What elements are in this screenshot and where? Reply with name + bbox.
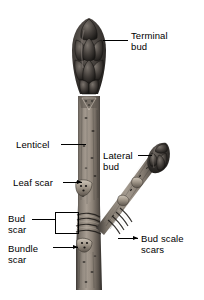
lateral-bud (147, 143, 170, 173)
leader-bud-scar (32, 212, 78, 233)
label-lenticel: Lenticel (16, 139, 50, 150)
label-leaf-scar: Leaf scar (13, 177, 53, 188)
terminal-bud-scale-scar (79, 96, 99, 110)
label-lateral-bud: Lateral bud (103, 150, 133, 172)
twig-diagram: Terminal bud Lenticel Lateral bud Leaf s… (0, 0, 204, 300)
terminal-bud (72, 18, 106, 94)
label-bud-scale-scars: Bud scale scars (141, 233, 184, 255)
label-bud-scar: Bud scar (8, 213, 26, 235)
label-terminal-bud: Terminal bud (131, 30, 168, 52)
label-bundle-scar: Bundle scar (8, 243, 38, 265)
